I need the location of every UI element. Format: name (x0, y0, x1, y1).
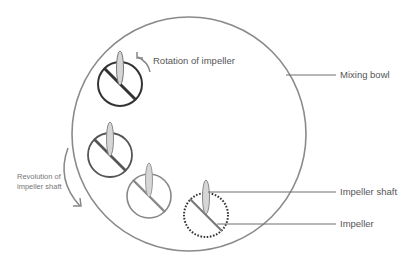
impeller-shaft-label: Impeller shaft (340, 186, 397, 197)
impeller-position-2 (88, 122, 132, 177)
revolution-label-line2: impeller shaft (17, 182, 62, 192)
mixing-bowl-label: Mixing bowl (340, 69, 390, 80)
rotation-label: Rotation of impeller (153, 55, 235, 66)
rotation-arrow-icon (137, 52, 150, 72)
impeller-position-4 (184, 180, 228, 237)
impeller-label: Impeller (340, 218, 374, 229)
impeller-position-1 (98, 51, 142, 106)
impeller-position-3 (127, 163, 171, 218)
revolution-label-line1: Revolution of (17, 172, 61, 182)
revolution-arrow-icon (64, 148, 81, 206)
